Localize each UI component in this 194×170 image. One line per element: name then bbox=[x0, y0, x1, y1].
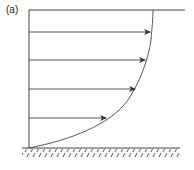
velocity-arrows bbox=[29, 32, 150, 118]
wall-hatching bbox=[22, 149, 180, 157]
velocity-profile-diagram bbox=[0, 0, 194, 170]
velocity-profile-curve bbox=[29, 10, 153, 148]
